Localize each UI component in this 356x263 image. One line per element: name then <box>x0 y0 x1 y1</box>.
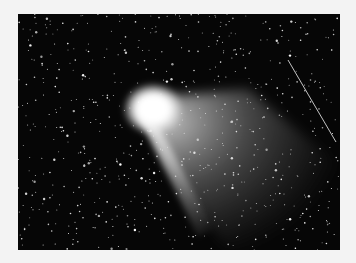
star <box>260 39 261 40</box>
star <box>40 56 42 58</box>
star <box>245 67 247 69</box>
star <box>24 228 26 230</box>
star <box>43 245 44 246</box>
star <box>84 76 86 78</box>
star <box>119 163 121 165</box>
star <box>166 80 168 82</box>
star <box>229 21 230 22</box>
star <box>243 49 244 50</box>
star <box>28 40 29 41</box>
star <box>188 236 189 237</box>
star <box>181 47 182 48</box>
star <box>48 224 50 226</box>
star <box>223 52 224 53</box>
star <box>148 153 149 154</box>
star <box>204 235 205 236</box>
star <box>41 63 43 65</box>
star <box>75 59 77 61</box>
star <box>161 51 163 53</box>
star <box>160 219 161 220</box>
star <box>155 59 156 60</box>
star <box>84 148 85 149</box>
star <box>134 219 135 220</box>
star <box>56 210 57 211</box>
star <box>156 31 157 32</box>
star <box>92 178 94 180</box>
star <box>73 48 74 49</box>
star <box>104 57 105 58</box>
star <box>179 16 180 17</box>
star <box>320 87 322 89</box>
star <box>210 69 211 70</box>
star <box>52 184 53 185</box>
star <box>107 97 109 99</box>
star <box>23 28 24 29</box>
star <box>99 198 100 199</box>
star <box>165 217 167 219</box>
star <box>139 40 140 41</box>
star <box>18 107 19 108</box>
star <box>307 33 309 35</box>
star <box>322 59 323 60</box>
star <box>78 187 80 189</box>
star <box>220 22 221 23</box>
star <box>35 31 37 33</box>
star <box>127 249 128 250</box>
star <box>63 186 65 188</box>
star <box>135 14 137 15</box>
star <box>140 177 142 179</box>
star <box>83 106 84 107</box>
star <box>250 51 251 52</box>
star <box>58 151 59 152</box>
star <box>73 239 74 240</box>
star <box>118 176 119 177</box>
star <box>81 180 82 181</box>
star <box>90 122 91 123</box>
star <box>115 82 116 83</box>
star <box>193 81 194 82</box>
star <box>76 228 78 230</box>
star <box>50 54 51 55</box>
star <box>83 145 85 147</box>
star <box>316 49 318 51</box>
star <box>150 32 151 33</box>
star <box>119 105 120 106</box>
star <box>97 14 99 15</box>
star <box>142 202 143 203</box>
star <box>50 24 51 25</box>
star <box>63 158 64 159</box>
star <box>117 216 118 217</box>
star <box>89 78 90 79</box>
star <box>83 194 84 195</box>
star <box>86 50 87 51</box>
star <box>168 201 170 203</box>
star <box>50 21 51 22</box>
star <box>30 130 31 131</box>
star <box>78 153 79 154</box>
star <box>150 16 151 17</box>
star <box>110 248 112 250</box>
star <box>190 14 192 16</box>
star <box>53 139 54 140</box>
star <box>235 71 236 72</box>
star <box>155 181 156 182</box>
star <box>155 26 156 27</box>
star <box>18 22 20 24</box>
star <box>198 21 200 23</box>
star <box>127 226 129 228</box>
star <box>163 79 164 80</box>
star <box>35 175 36 176</box>
star <box>337 160 339 162</box>
star <box>178 39 179 40</box>
star <box>198 14 199 15</box>
star <box>80 152 82 154</box>
star <box>322 127 324 129</box>
star <box>245 15 246 16</box>
star <box>58 69 60 71</box>
star <box>124 49 126 51</box>
star <box>52 34 53 35</box>
star <box>68 233 69 234</box>
star <box>310 109 311 110</box>
star <box>116 161 118 163</box>
star <box>329 147 330 148</box>
